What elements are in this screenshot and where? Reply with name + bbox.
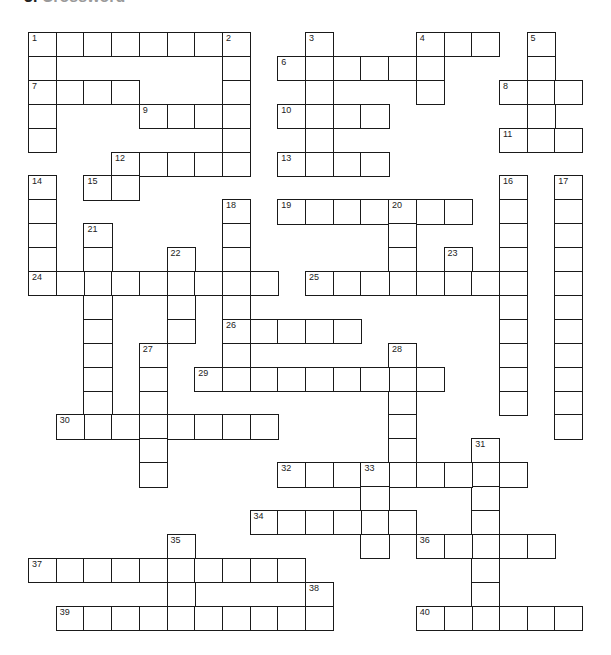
crossword-cell[interactable] [250, 271, 279, 296]
crossword-cell[interactable]: 38 [305, 582, 334, 607]
crossword-cell[interactable] [139, 271, 168, 296]
crossword-cell[interactable] [471, 534, 500, 559]
crossword-cell[interactable] [305, 606, 334, 631]
crossword-cell[interactable] [222, 223, 251, 248]
crossword-cell[interactable] [139, 414, 168, 439]
crossword-cell[interactable]: 20 [388, 199, 417, 224]
crossword-cell[interactable] [305, 199, 334, 224]
crossword-cell[interactable] [56, 271, 85, 296]
crossword-cell[interactable] [111, 558, 140, 583]
crossword-cell[interactable] [250, 414, 279, 439]
crossword-cell[interactable] [83, 319, 112, 344]
crossword-cell[interactable] [139, 606, 168, 631]
crossword-cell[interactable] [416, 367, 445, 392]
crossword-cell[interactable] [333, 271, 362, 296]
crossword-cell[interactable] [527, 606, 556, 631]
crossword-cell[interactable] [554, 606, 583, 631]
crossword-cell[interactable] [167, 606, 196, 631]
crossword-cell[interactable] [444, 199, 473, 224]
crossword-cell[interactable] [333, 462, 362, 487]
crossword-cell[interactable] [139, 152, 168, 177]
crossword-cell[interactable]: 24 [28, 271, 57, 296]
crossword-cell[interactable] [527, 104, 556, 129]
crossword-cell[interactable] [305, 128, 334, 153]
crossword-cell[interactable] [499, 199, 528, 224]
crossword-cell[interactable]: 33 [360, 462, 389, 487]
crossword-cell[interactable]: 3 [305, 32, 334, 57]
crossword-cell[interactable] [554, 319, 583, 344]
crossword-cell[interactable]: 18 [222, 199, 251, 224]
crossword-cell[interactable] [167, 582, 196, 607]
crossword-cell[interactable] [28, 223, 57, 248]
crossword-cell[interactable]: 14 [28, 175, 57, 200]
crossword-cell[interactable] [194, 152, 223, 177]
crossword-cell[interactable] [527, 56, 556, 81]
crossword-cell[interactable] [416, 56, 445, 81]
crossword-cell[interactable] [388, 414, 417, 439]
crossword-cell[interactable] [471, 582, 500, 607]
crossword-cell[interactable]: 9 [139, 104, 168, 129]
crossword-cell[interactable] [360, 199, 389, 224]
crossword-cell[interactable] [444, 534, 473, 559]
crossword-cell[interactable] [28, 56, 57, 81]
crossword-cell[interactable]: 15 [83, 175, 112, 200]
crossword-cell[interactable] [499, 343, 528, 368]
crossword-cell[interactable] [554, 199, 583, 224]
crossword-cell[interactable] [471, 271, 500, 296]
crossword-cell[interactable] [527, 80, 556, 105]
crossword-cell[interactable] [56, 32, 85, 57]
crossword-cell[interactable] [471, 606, 500, 631]
crossword-cell[interactable] [305, 56, 334, 81]
crossword-cell[interactable] [388, 391, 417, 416]
crossword-cell[interactable] [554, 80, 583, 105]
crossword-cell[interactable] [83, 558, 112, 583]
crossword-cell[interactable] [83, 414, 112, 439]
crossword-cell[interactable] [527, 534, 556, 559]
crossword-cell[interactable] [499, 319, 528, 344]
crossword-cell[interactable]: 28 [388, 343, 417, 368]
crossword-cell[interactable] [444, 462, 473, 487]
crossword-cell[interactable]: 12 [111, 152, 140, 177]
crossword-cell[interactable] [554, 223, 583, 248]
crossword-cell[interactable] [111, 175, 140, 200]
crossword-cell[interactable] [333, 56, 362, 81]
crossword-cell[interactable] [388, 56, 417, 81]
crossword-cell[interactable]: 8 [499, 80, 528, 105]
crossword-cell[interactable]: 19 [277, 199, 306, 224]
crossword-cell[interactable]: 37 [28, 558, 57, 583]
crossword-cell[interactable]: 29 [194, 367, 223, 392]
crossword-cell[interactable]: 17 [554, 175, 583, 200]
crossword-cell[interactable] [305, 104, 334, 129]
crossword-cell[interactable] [554, 367, 583, 392]
crossword-cell[interactable] [111, 606, 140, 631]
crossword-cell[interactable] [167, 152, 196, 177]
crossword-cell[interactable] [360, 271, 389, 296]
crossword-cell[interactable]: 2 [222, 32, 251, 57]
crossword-cell[interactable] [167, 558, 196, 583]
crossword-cell[interactable] [388, 510, 417, 535]
crossword-cell[interactable] [28, 128, 57, 153]
crossword-cell[interactable] [499, 223, 528, 248]
crossword-cell[interactable] [83, 271, 112, 296]
crossword-cell[interactable]: 10 [277, 104, 306, 129]
crossword-cell[interactable] [471, 510, 500, 535]
crossword-cell[interactable] [28, 247, 57, 272]
crossword-cell[interactable] [194, 104, 223, 129]
crossword-cell[interactable] [250, 367, 279, 392]
crossword-cell[interactable]: 39 [56, 606, 85, 631]
crossword-cell[interactable] [499, 271, 528, 296]
crossword-cell[interactable]: 31 [471, 438, 500, 463]
crossword-cell[interactable] [360, 56, 389, 81]
crossword-cell[interactable] [139, 558, 168, 583]
crossword-cell[interactable] [554, 247, 583, 272]
crossword-cell[interactable] [83, 343, 112, 368]
crossword-cell[interactable] [305, 462, 334, 487]
crossword-cell[interactable] [305, 80, 334, 105]
crossword-cell[interactable]: 16 [499, 175, 528, 200]
crossword-cell[interactable]: 5 [527, 32, 556, 57]
crossword-cell[interactable] [167, 295, 196, 320]
crossword-cell[interactable] [222, 271, 251, 296]
crossword-cell[interactable] [360, 152, 389, 177]
crossword-cell[interactable] [499, 247, 528, 272]
crossword-cell[interactable] [222, 128, 251, 153]
